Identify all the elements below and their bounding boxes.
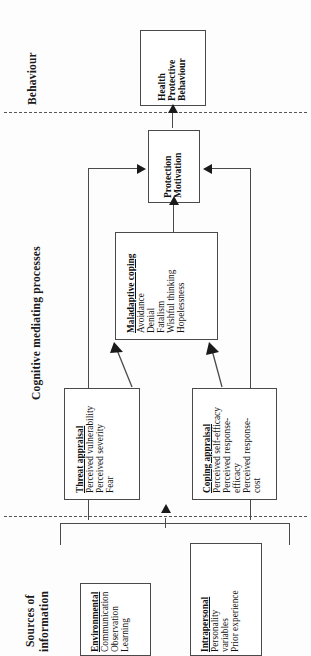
box-intrapersonal: Intrapersonal Personality variables Prio…	[190, 543, 262, 656]
box-threat-appraisal-text: Threat appraisal Perceived vulnerability…	[76, 406, 116, 493]
bracket-sources-right-leg	[289, 523, 290, 545]
box-coping-appraisal-text: Coping appraisal Perceived self-efficacy…	[203, 407, 263, 493]
box-intrapersonal-text: Intrapersonal Personality variables Prio…	[201, 590, 241, 652]
box-environmental: Environmental Communication Observation …	[80, 583, 151, 656]
box-environmental-text: Environmental Communication Observation …	[91, 592, 131, 652]
figure-canvas: Behaviour Cognitive mediating processes …	[0, 0, 311, 656]
bracket-sources-bar	[60, 523, 290, 524]
coping-line-5: cost	[253, 407, 263, 493]
environmental-line-3: Learning	[121, 592, 131, 652]
arrowhead-sources-to-appraisals	[161, 504, 171, 513]
box-threat-appraisal: Threat appraisal Perceived vulnerability…	[64, 388, 140, 500]
bracket-sources-left-leg	[60, 523, 61, 545]
box-coping-appraisal: Coping appraisal Perceived self-efficacy…	[192, 388, 277, 500]
intrapersonal-line-3: Prior experience	[231, 590, 241, 652]
connector-coping-to-maladaptive	[0, 0, 311, 656]
threat-line-3: Fear	[106, 406, 116, 493]
